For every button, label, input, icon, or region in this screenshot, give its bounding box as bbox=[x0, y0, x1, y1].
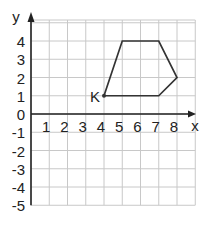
coordinate-grid-chart: 1234567843210-1-2-3-4-5yx K bbox=[0, 0, 208, 226]
y-tick-label: -2 bbox=[12, 143, 25, 160]
y-tick-label: 1 bbox=[17, 88, 25, 105]
y-axis-arrow-icon bbox=[28, 12, 35, 22]
y-axis-label: y bbox=[12, 8, 20, 25]
y-tick-label: -3 bbox=[12, 161, 25, 178]
y-tick-label: 2 bbox=[17, 70, 25, 87]
x-tick-label: 2 bbox=[60, 118, 68, 135]
y-tick-label: 3 bbox=[17, 51, 25, 68]
polygon-shape: K bbox=[90, 41, 177, 105]
tick-labels: 1234567843210-1-2-3-4-5yx bbox=[12, 8, 200, 214]
y-tick-label: 4 bbox=[17, 33, 25, 50]
y-tick-label: -4 bbox=[12, 179, 25, 196]
y-tick-label: -1 bbox=[12, 124, 25, 141]
y-tick-label: 0 bbox=[17, 106, 25, 123]
x-tick-label: 6 bbox=[133, 118, 141, 135]
x-tick-label: 3 bbox=[79, 118, 87, 135]
x-tick-label: 8 bbox=[170, 118, 178, 135]
x-tick-label: 4 bbox=[97, 118, 105, 135]
x-tick-label: 7 bbox=[152, 118, 160, 135]
point-label: K bbox=[90, 88, 100, 105]
y-tick-label: -5 bbox=[12, 197, 25, 214]
x-tick-label: 1 bbox=[42, 118, 50, 135]
x-tick-label: 5 bbox=[115, 118, 123, 135]
point-marker bbox=[102, 94, 106, 98]
grid-lines bbox=[31, 20, 195, 205]
x-axis-label: x bbox=[191, 117, 199, 134]
